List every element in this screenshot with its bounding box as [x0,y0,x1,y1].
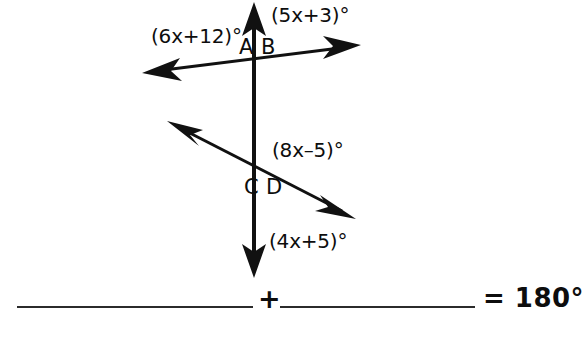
point-label-d: D [266,177,282,198]
angle-label-lower-right: (4x+5)° [269,231,347,251]
answer-blank-first[interactable] [17,306,253,308]
answer-blank-second[interactable] [280,306,475,308]
equation-result: = 180° [483,285,584,311]
angle-label-upper-left: (6x+12)° [151,26,242,46]
angle-label-middle-right: (8x–5)° [272,140,344,160]
point-label-b: B [261,37,275,58]
lower-transversal-lower-right-arrowhead [315,195,356,219]
plus-sign: + [258,285,281,312]
lower-transversal-upper-left-arrowhead [167,121,203,146]
upper-transversal-right-arrowhead [323,36,361,59]
point-label-c: C [244,177,259,198]
angle-label-upper-right: (5x+3)° [271,5,349,25]
